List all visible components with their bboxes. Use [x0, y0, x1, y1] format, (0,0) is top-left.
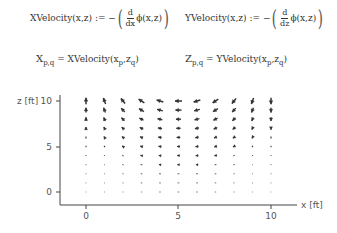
- arrow-head-icon: [196, 145, 199, 148]
- arrow-head-icon: [158, 136, 161, 139]
- arrow-head-icon: [251, 100, 255, 104]
- arrow-head-icon: [214, 136, 217, 139]
- arrow-head-icon: [269, 127, 272, 130]
- arrow-head-icon: [175, 99, 179, 103]
- arrow-head-icon: [159, 164, 161, 166]
- arrow-head-icon: [195, 136, 198, 139]
- arrow-head-icon: [196, 164, 198, 166]
- velocity-arrow: [252, 164, 253, 165]
- arrow-head-icon: [251, 109, 254, 113]
- arrow-head-icon: [84, 117, 87, 120]
- vector-field-plot: 10 5 0 0 5 10 z [ft] x [ft]: [0, 0, 337, 233]
- plot-axes: [56, 95, 297, 209]
- x-axis-label: x [ft]: [301, 200, 323, 210]
- arrow-head-icon: [233, 135, 236, 138]
- x-tick-label-0: 0: [83, 211, 89, 221]
- arrow-head-icon: [84, 108, 88, 111]
- arrow-head-icon: [159, 154, 161, 156]
- arrow-head-icon: [177, 164, 179, 166]
- y-tick-label-5: 5: [46, 142, 52, 152]
- x-tick-label-10: 10: [265, 211, 277, 221]
- arrow-head-icon: [233, 126, 236, 129]
- arrow-head-icon: [214, 145, 217, 148]
- arrow-head-icon: [104, 127, 107, 130]
- arrow-head-icon: [196, 154, 198, 156]
- arrow-head-icon: [140, 146, 143, 149]
- velocity-arrow: [104, 146, 105, 147]
- velocity-arrow: [252, 146, 253, 147]
- velocity-arrow: [104, 155, 105, 156]
- y-axis-label: z [ft]: [17, 96, 38, 106]
- arrow-head-icon: [176, 127, 179, 130]
- arrow-head-icon: [214, 126, 217, 129]
- arrow-head-icon: [140, 136, 143, 139]
- arrow-head-icon: [269, 101, 273, 105]
- velocity-arrow: [252, 155, 253, 156]
- velocity-arrow: [233, 155, 235, 156]
- velocity-arrow: [104, 164, 105, 165]
- arrow-head-icon: [233, 145, 236, 147]
- arrow-head-icon: [177, 136, 180, 139]
- arrow-head-icon: [103, 98, 107, 102]
- arrow-head-icon: [122, 146, 125, 148]
- velocity-arrow: [122, 155, 124, 156]
- arrow-head-icon: [252, 135, 255, 138]
- arrow-head-icon: [176, 118, 179, 121]
- y-tick-label-10: 10: [41, 96, 53, 106]
- arrow-head-icon: [269, 118, 272, 121]
- arrow-head-icon: [140, 127, 143, 130]
- arrow-head-icon: [175, 108, 178, 112]
- arrow-head-icon: [177, 154, 179, 156]
- arrow-head-icon: [159, 145, 162, 148]
- arrow-head-icon: [177, 145, 179, 148]
- arrow-head-icon: [122, 137, 125, 140]
- arrow-head-icon: [84, 98, 88, 102]
- x-tick-label-5: 5: [175, 211, 181, 221]
- arrow-head-icon: [122, 127, 125, 130]
- arrow-head-icon: [103, 108, 106, 112]
- y-tick-label-0: 0: [46, 187, 52, 197]
- arrow-head-icon: [84, 127, 87, 130]
- arrow-head-icon: [269, 109, 273, 112]
- arrow-head-icon: [104, 136, 107, 139]
- velocity-arrows: [84, 98, 273, 192]
- arrow-head-icon: [252, 126, 255, 129]
